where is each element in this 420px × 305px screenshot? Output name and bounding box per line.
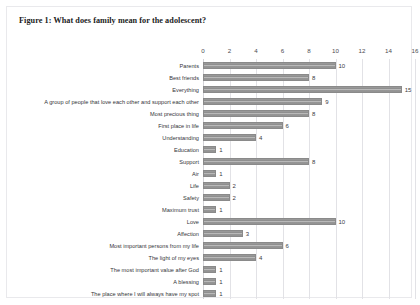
category-label: Air <box>192 171 199 177</box>
bar-row: Most precious thing8 <box>203 108 415 120</box>
bar <box>203 134 256 141</box>
bar-row: The place where I will always have my sp… <box>203 288 415 300</box>
bar <box>203 110 309 117</box>
bar-value-label: 10 <box>339 219 346 225</box>
x-tick-label-2: 2 <box>228 47 231 54</box>
figure-title: Figure 1: What does family mean for the … <box>19 16 206 25</box>
bar <box>203 158 309 165</box>
x-tick-label-6: 6 <box>281 47 284 54</box>
bar-value-label: 10 <box>339 63 346 69</box>
bar <box>203 62 336 69</box>
x-tick-label-0: 0 <box>201 47 204 54</box>
bar-row: First place in life6 <box>203 120 415 132</box>
bar <box>203 230 243 237</box>
category-label: The most important value after God <box>110 267 199 273</box>
bar <box>203 218 336 225</box>
bar-row: The most important value after God1 <box>203 264 415 276</box>
bar <box>203 122 283 129</box>
bar-row: Parents10 <box>203 60 415 72</box>
bar-row: Life2 <box>203 180 415 192</box>
bar-value-label: 4 <box>259 255 262 261</box>
bar-row: A group of people that love each other a… <box>203 96 415 108</box>
category-label: The place where I will always have my sp… <box>91 291 199 297</box>
bar-value-label: 8 <box>312 111 315 117</box>
x-tick-label-16: 16 <box>412 47 419 54</box>
bar <box>203 74 309 81</box>
bar-row: A blessing1 <box>203 276 415 288</box>
bar-value-label: 2 <box>233 183 236 189</box>
category-label: Understanding <box>162 135 199 141</box>
bar <box>203 194 230 201</box>
category-label: Maximum trust <box>162 207 199 213</box>
bar-row: Everything15 <box>203 84 415 96</box>
bar-row: Understanding4 <box>203 132 415 144</box>
bar-row: Best friends8 <box>203 72 415 84</box>
category-label: Education <box>174 147 199 153</box>
bar-row: Support8 <box>203 156 415 168</box>
category-label: Safety <box>183 195 199 201</box>
bar-value-label: 1 <box>219 147 222 153</box>
category-label: A blessing <box>173 279 199 285</box>
bar <box>203 206 216 213</box>
bar-value-label: 8 <box>312 159 315 165</box>
bar <box>203 146 216 153</box>
bar-row: Affection3 <box>203 228 415 240</box>
x-axis-tick-labels: 0246810121416 <box>203 47 415 59</box>
bar-value-label: 2 <box>233 195 236 201</box>
bar-value-label: 6 <box>286 123 289 129</box>
category-label: Life <box>190 183 199 189</box>
figure-frame: Figure 1: What does family mean for the … <box>6 6 412 298</box>
category-label: Support <box>179 159 199 165</box>
category-label: The light of my eyes <box>149 255 199 261</box>
x-tick-label-12: 12 <box>359 47 366 54</box>
bar <box>203 254 256 261</box>
category-label: Everything <box>172 87 199 93</box>
bar-value-label: 6 <box>286 243 289 249</box>
bar-row: Education1 <box>203 144 415 156</box>
category-label: A group of people that love each other a… <box>44 99 199 105</box>
bar-row: The light of my eyes4 <box>203 252 415 264</box>
bar-row: Most important persons from my life6 <box>203 240 415 252</box>
category-label: First place in life <box>158 123 199 129</box>
bar-row: Safety2 <box>203 192 415 204</box>
bar <box>203 170 216 177</box>
category-label: Most precious thing <box>150 111 199 117</box>
bar-value-label: 15 <box>405 87 412 93</box>
bar-row: Love10 <box>203 216 415 228</box>
bar-value-label: 1 <box>219 171 222 177</box>
bar <box>203 266 216 273</box>
bar-value-label: 3 <box>246 231 249 237</box>
bar <box>203 86 402 93</box>
bar <box>203 182 230 189</box>
bar <box>203 278 216 285</box>
bar-value-label: 1 <box>219 291 222 297</box>
bar-value-label: 8 <box>312 75 315 81</box>
x-tick-label-10: 10 <box>332 47 339 54</box>
bar-value-label: 1 <box>219 267 222 273</box>
category-label: Most important persons from my life <box>109 243 199 249</box>
category-label: Best friends <box>169 75 199 81</box>
bar-row: Maximum trust1 <box>203 204 415 216</box>
x-tick-label-4: 4 <box>254 47 257 54</box>
bar <box>203 98 322 105</box>
x-tick-label-8: 8 <box>307 47 310 54</box>
bar <box>203 242 283 249</box>
bar-value-label: 1 <box>219 207 222 213</box>
bar-value-label: 9 <box>325 99 328 105</box>
gridline-16 <box>415 59 416 299</box>
plot-area: Parents10Best friends8Everything15A grou… <box>203 59 415 299</box>
bar-value-label: 4 <box>259 135 262 141</box>
bar-row: Air1 <box>203 168 415 180</box>
bar <box>203 290 216 297</box>
category-label: Parents <box>180 63 199 69</box>
category-label: Affection <box>177 231 199 237</box>
x-tick-label-14: 14 <box>385 47 392 54</box>
bar-value-label: 1 <box>219 279 222 285</box>
category-label: Love <box>187 219 199 225</box>
